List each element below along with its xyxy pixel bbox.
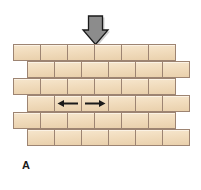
brick bbox=[108, 129, 136, 146]
brick-with-tension-arrow bbox=[54, 95, 82, 112]
brick-with-tension-arrow bbox=[81, 95, 109, 112]
brick bbox=[121, 78, 149, 95]
brick-wall bbox=[0, 44, 201, 150]
brick-row bbox=[13, 78, 176, 95]
brick bbox=[94, 112, 122, 129]
brick bbox=[94, 78, 122, 95]
brick bbox=[13, 78, 41, 95]
brick-row bbox=[13, 112, 176, 129]
brick bbox=[67, 44, 95, 61]
brick bbox=[148, 78, 176, 95]
brick bbox=[148, 112, 176, 129]
brick-row bbox=[13, 44, 176, 61]
brick bbox=[135, 61, 163, 78]
brick bbox=[135, 129, 163, 146]
brick bbox=[40, 44, 68, 61]
brick bbox=[121, 112, 149, 129]
brick bbox=[67, 78, 95, 95]
brick bbox=[81, 129, 109, 146]
brick bbox=[54, 129, 82, 146]
brick bbox=[40, 112, 68, 129]
brick bbox=[121, 44, 149, 61]
brick bbox=[162, 61, 190, 78]
brick bbox=[108, 95, 136, 112]
brick bbox=[148, 44, 176, 61]
brick bbox=[162, 129, 190, 146]
brick-wall-figure: A bbox=[0, 0, 201, 190]
brick bbox=[27, 129, 55, 146]
brick bbox=[94, 44, 122, 61]
brick-row bbox=[27, 129, 190, 146]
brick bbox=[40, 78, 68, 95]
brick-row bbox=[27, 95, 190, 112]
brick bbox=[27, 61, 55, 78]
brick bbox=[81, 61, 109, 78]
arrow-down-icon bbox=[81, 14, 111, 47]
brick bbox=[13, 44, 41, 61]
brick bbox=[108, 61, 136, 78]
brick-row bbox=[27, 61, 190, 78]
brick bbox=[13, 112, 41, 129]
brick bbox=[54, 61, 82, 78]
arrow-left-icon bbox=[55, 96, 81, 111]
brick bbox=[67, 112, 95, 129]
brick bbox=[27, 95, 55, 112]
panel-label: A bbox=[22, 160, 30, 171]
arrow-right-icon bbox=[82, 96, 108, 111]
brick bbox=[135, 95, 163, 112]
brick bbox=[162, 95, 190, 112]
